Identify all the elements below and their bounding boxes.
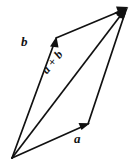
- vector-a-label: a: [74, 132, 81, 145]
- vector-diagram-figure: b a a + b: [0, 0, 131, 164]
- vector-sum-label-wrap: a + b: [44, 62, 90, 84]
- vector-b-label: b: [21, 35, 28, 48]
- side-a-to-apex-shaft: [88, 13, 125, 124]
- side-b-to-apex-shaft: [56, 10, 123, 38]
- side-a-to-apex: [88, 8, 128, 125]
